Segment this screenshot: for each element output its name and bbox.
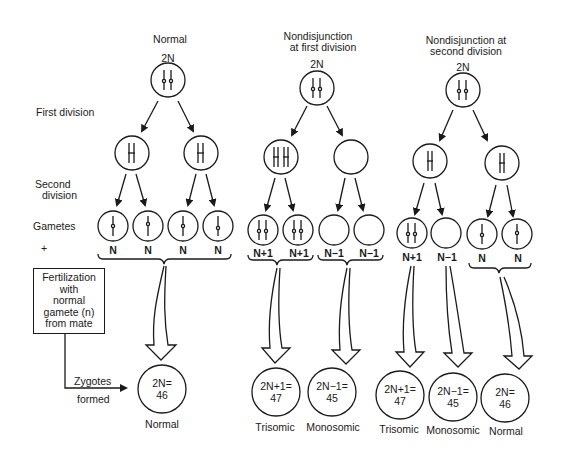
nd1-parent-label: 2N (310, 58, 323, 70)
zygote-outcome-label: Trisomic (255, 421, 294, 433)
gamete-label: N−1 (324, 247, 344, 259)
nd2-monosomic-hollow-arrow (444, 266, 472, 367)
zygote-count: 45 (437, 397, 469, 409)
row-label-first-division: First division (36, 106, 94, 118)
nd1-first-division-cell-right-empty (334, 140, 368, 174)
nd2-parent-cell (446, 73, 480, 107)
nd1-column-title-line2: at first division (290, 41, 357, 53)
gamete-label: N−1 (437, 251, 457, 263)
nd2-gametes (397, 218, 532, 249)
nd1-monosomic-hollow-arrow (332, 268, 360, 364)
nd2-first-division-cell-right (485, 146, 519, 180)
nd1-parent-cell (300, 71, 334, 105)
zygote-outcome-label: Trisomic (379, 423, 418, 435)
zygote-count: 46 (495, 398, 515, 410)
normal-gametes (98, 211, 233, 241)
nd2-normal-hollow-arrow (500, 277, 532, 369)
gamete-label: N+1 (289, 247, 309, 259)
zygote-formula: 2N+1= (384, 383, 416, 395)
fertilization-box: Fertilization with normal gamete (n) fro… (33, 268, 105, 334)
zygote-outcome-label: Monosomic (306, 421, 360, 433)
nd2-first-division-cell-left (413, 144, 447, 178)
row-label-plus: + (41, 242, 47, 254)
normal-gametes-brace (98, 254, 231, 264)
nd2-trisomic-zygote: 2N+1= 47 (384, 383, 416, 407)
normal-zygote: 2N= 46 (152, 377, 172, 401)
gamete-label: N (109, 244, 117, 256)
nd1-trisomic-hollow-arrow (262, 268, 290, 363)
normal-parent-label: 2N (161, 52, 174, 64)
zygote-formula: 2N= (495, 386, 515, 398)
gamete-label: N+1 (253, 247, 273, 259)
zygotes-label-line2: formed (77, 393, 110, 405)
nd2-monosomic-zygote: 2N−1= 45 (437, 385, 469, 409)
normal-first-division-cell-left (115, 136, 149, 170)
gamete-label: N+1 (402, 251, 422, 263)
nd2-column-title-line2: second division (430, 45, 502, 57)
zygote-count: 45 (316, 392, 348, 404)
normal-hollow-arrow (146, 266, 176, 360)
nd1-first-division-cell-left (264, 140, 298, 174)
zygote-count: 47 (260, 392, 292, 404)
nd2-trisomic-hollow-arrow (396, 266, 424, 367)
zygote-count: 47 (384, 395, 416, 407)
normal-first-division-cell-right (184, 136, 218, 170)
zygotes-label-line1: Zygotes (74, 375, 111, 387)
zygote-formula: 2N−1= (437, 385, 469, 397)
row-label-second-division-line2: division (42, 189, 77, 201)
gamete-label: N (214, 244, 222, 256)
zygote-outcome-label: Monosomic (426, 424, 480, 436)
gamete-label: N (144, 244, 152, 256)
normal-column-title: Normal (153, 33, 187, 45)
zygote-formula: 2N= (152, 377, 172, 389)
normal-parent-cell (151, 63, 185, 97)
zygote-count: 46 (152, 389, 172, 401)
gamete-label: N−1 (359, 247, 379, 259)
gamete-label: N (179, 244, 187, 256)
zygote-outcome-label: Normal (489, 425, 523, 437)
nd2-parent-label: 2N (456, 61, 469, 73)
gamete-label: N (478, 252, 486, 264)
nd1-gametes (248, 215, 384, 245)
row-label-gametes: Gametes (33, 220, 76, 232)
zygote-formula: 2N+1= (260, 380, 292, 392)
gamete-label: N (514, 252, 522, 264)
zygote-formula: 2N−1= (316, 380, 348, 392)
nd2-normal-brace (469, 263, 531, 273)
nd1-monosomic-zygote: 2N−1= 45 (316, 380, 348, 404)
zygote-outcome-label: Normal (145, 418, 179, 430)
nd1-trisomic-zygote: 2N+1= 47 (260, 380, 292, 404)
nd2-normal-zygote: 2N= 46 (495, 386, 515, 410)
fertilization-line: from mate (42, 318, 96, 330)
